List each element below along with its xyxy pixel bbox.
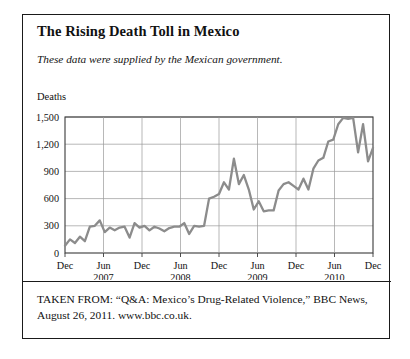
- y-tick-label: 300: [44, 220, 59, 231]
- y-tick-label: 600: [44, 193, 59, 204]
- x-tick-label: Dec: [57, 260, 74, 271]
- x-tick-year-label: 2008: [170, 272, 190, 280]
- figure-page: The Rising Death Toll in Mexico These da…: [0, 0, 410, 359]
- x-tick-year-label: 2009: [247, 272, 267, 280]
- x-tick-label: Jun: [96, 260, 110, 271]
- x-tick-label: Jun: [173, 260, 187, 271]
- line-chart: 03006009001,2001,500DecJun2007DecJun2008…: [23, 15, 391, 280]
- x-tick-label: Dec: [288, 260, 305, 271]
- y-tick-label: 900: [44, 166, 59, 177]
- figure-frame: The Rising Death Toll in Mexico These da…: [22, 14, 390, 339]
- x-tick-label: Dec: [211, 260, 228, 271]
- x-tick-year-label: 2007: [93, 272, 113, 280]
- caption-divider: [23, 281, 391, 282]
- x-tick-label: Dec: [365, 260, 382, 271]
- x-tick-label: Dec: [134, 260, 151, 271]
- source-caption: TAKEN FROM: “Q&A: Mexico’s Drug-Related …: [37, 291, 381, 323]
- x-tick-label: Jun: [327, 260, 341, 271]
- x-tick-label: Jun: [250, 260, 264, 271]
- y-tick-label: 0: [54, 248, 59, 259]
- y-tick-label: 1,500: [36, 112, 59, 123]
- x-tick-year-label: 2010: [324, 272, 344, 280]
- y-tick-label: 1,200: [36, 139, 59, 150]
